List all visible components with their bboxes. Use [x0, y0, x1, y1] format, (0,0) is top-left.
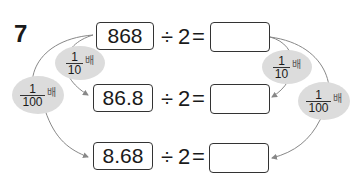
unit-label: 배 — [333, 90, 342, 105]
numerator: 1 — [276, 55, 287, 67]
fraction: 1 10 — [273, 55, 290, 80]
badge-left-tenth: 1 10 배 — [55, 46, 105, 80]
answer-input-2[interactable] — [210, 84, 270, 114]
fraction: 1 10 — [66, 51, 83, 76]
answer-input-3[interactable] — [209, 143, 269, 173]
equals-sign-2: = — [192, 86, 205, 112]
equals-sign-1: = — [192, 24, 205, 50]
unit-label: 배 — [47, 84, 56, 99]
divide-sign-2: ÷ — [161, 86, 173, 112]
denominator: 10 — [273, 68, 290, 80]
denominator: 100 — [20, 96, 44, 108]
equals-sign-3: = — [192, 144, 205, 170]
denominator: 10 — [66, 64, 83, 76]
badge-right-hundredth: 1 100 배 — [298, 82, 350, 120]
badge-left-hundredth: 1 100 배 — [12, 76, 64, 114]
unit-label: 배 — [292, 56, 301, 71]
divisor-3: 2 — [178, 144, 190, 170]
divisor-2: 2 — [178, 86, 190, 112]
numerator: 1 — [313, 89, 324, 101]
denominator: 100 — [306, 102, 330, 114]
numerator: 1 — [27, 83, 38, 95]
divide-sign-1: ÷ — [161, 24, 173, 50]
divide-sign-3: ÷ — [161, 144, 173, 170]
problem-number: 7 — [14, 20, 27, 48]
badge-right-tenth: 1 10 배 — [262, 50, 312, 84]
dividend-box-1: 868 — [96, 22, 154, 50]
answer-input-1[interactable] — [210, 22, 270, 52]
numerator: 1 — [69, 51, 80, 63]
fraction: 1 100 — [20, 83, 44, 108]
unit-label: 배 — [85, 52, 94, 67]
dividend-box-3: 8.68 — [93, 142, 153, 170]
divisor-1: 2 — [178, 24, 190, 50]
dividend-box-2: 86.8 — [93, 84, 153, 112]
fraction: 1 100 — [306, 89, 330, 114]
